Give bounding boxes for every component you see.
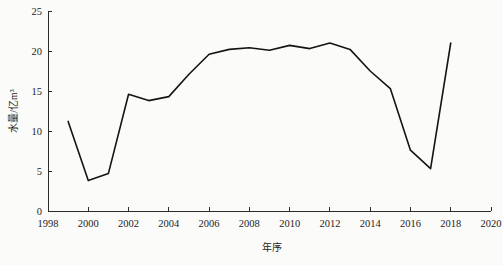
x-tick-label: 2004: [158, 218, 180, 229]
x-tick-label: 2014: [360, 218, 382, 229]
x-tick-label: 1998: [38, 218, 59, 229]
chart-figure: 0510152025 19982000200220042006200820102…: [0, 0, 503, 265]
x-axis-title: 年序: [262, 241, 282, 253]
x-tick-label: 2010: [279, 218, 300, 229]
x-tick-label: 2018: [440, 218, 461, 229]
y-tick-label: 10: [32, 126, 43, 137]
x-tick-label: 2002: [118, 218, 139, 229]
line-chart: 0510152025 19982000200220042006200820102…: [0, 0, 503, 265]
y-tick-label: 5: [37, 166, 42, 177]
y-tick-label: 20: [32, 46, 43, 57]
x-tick-label: 2020: [481, 218, 502, 229]
x-tick-label: 2008: [239, 218, 260, 229]
y-tick-label: 15: [32, 86, 43, 97]
x-tick-label: 2016: [400, 218, 421, 229]
data-series-line: [68, 43, 451, 181]
y-axis-title: 水量/亿m³: [7, 89, 19, 133]
x-tick-label: 2006: [199, 218, 220, 229]
y-tick-label: 0: [37, 206, 42, 217]
x-tick-label: 2000: [78, 218, 99, 229]
y-tick-label: 25: [32, 6, 43, 17]
x-tick-label: 2012: [319, 218, 340, 229]
y-axis-ticks: 0510152025: [32, 6, 53, 217]
x-axis-ticks: 1998200020022004200620082010201220142016…: [38, 207, 502, 229]
